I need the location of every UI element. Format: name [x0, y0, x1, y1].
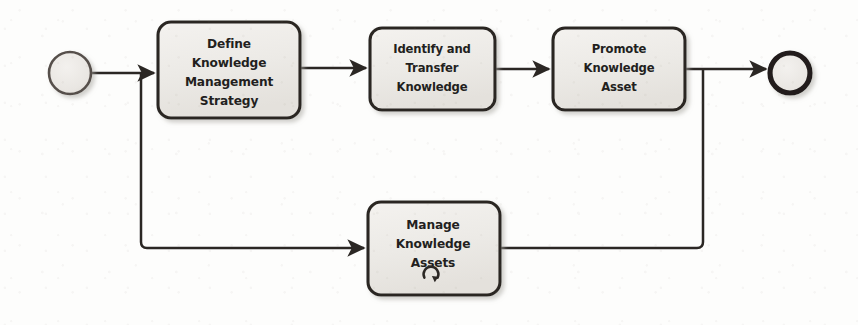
process-flow-svg: Define Knowledge Management Strategy Ide… [0, 0, 858, 325]
task-label-line-2: Knowledge [396, 237, 471, 251]
task-label-line-2: Transfer [406, 61, 459, 75]
task-label-line-4: Strategy [200, 94, 259, 108]
task-define-knowledge-management-strategy[interactable]: Define Knowledge Management Strategy [158, 22, 300, 118]
task-promote-knowledge-asset[interactable]: Promote Knowledge Asset [553, 28, 685, 110]
end-event[interactable] [770, 53, 810, 93]
task-identify-and-transfer-knowledge[interactable]: Identify and Transfer Knowledge [370, 28, 495, 110]
task-label-line-3: Asset [601, 80, 637, 94]
task-label-line-2: Knowledge [584, 61, 655, 75]
bpmn-diagram-canvas: Define Knowledge Management Strategy Ide… [0, 0, 858, 325]
task-label-line-1: Define [207, 37, 251, 51]
task-label-line-1: Promote [592, 42, 647, 56]
end-event-circle [770, 53, 810, 93]
start-event[interactable] [49, 52, 91, 94]
task-label-line-3: Management [185, 75, 274, 89]
start-event-circle [49, 52, 91, 94]
task-label-line-2: Knowledge [192, 56, 267, 70]
task-label-line-1: Identify and [393, 42, 470, 56]
task-label-line-1: Manage [406, 218, 459, 232]
task-manage-knowledge-assets[interactable]: Manage Knowledge Assets [368, 202, 500, 295]
task-label-line-3: Knowledge [397, 80, 468, 94]
